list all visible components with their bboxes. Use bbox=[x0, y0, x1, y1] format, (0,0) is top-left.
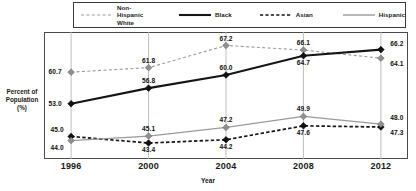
value-label-non-hispanic-white-2008: 66.1 bbox=[286, 39, 320, 46]
x-tick-2000: 2000 bbox=[119, 161, 179, 171]
value-label-non-hispanic-white-2004: 67.2 bbox=[209, 35, 243, 42]
value-label-asian-2000: 43.4 bbox=[132, 146, 166, 153]
data-point-hispanic-2000 bbox=[145, 133, 152, 140]
legend-item-hispanic: Hispanic bbox=[343, 3, 405, 27]
legend-item-non-hispanic-white: Non-Hispanic White bbox=[81, 3, 153, 27]
data-point-black-2012 bbox=[378, 46, 385, 53]
legend-label-non-hispanic-white: Non-Hispanic White bbox=[117, 4, 153, 26]
legend-label-hispanic: Hispanic bbox=[379, 11, 405, 18]
value-label-non-hispanic-white-1996: 60.7 bbox=[38, 68, 72, 75]
x-axis-title: Year bbox=[0, 177, 416, 184]
value-label-non-hispanic-white-2000: 61.8 bbox=[132, 57, 166, 64]
data-point-hispanic-2004 bbox=[223, 124, 230, 131]
data-point-black-2000 bbox=[145, 85, 152, 92]
chart-legend: Non-Hispanic White Black Asian bbox=[73, 2, 406, 28]
data-point-hispanic-2008 bbox=[300, 113, 307, 120]
value-label-hispanic-2012: 48.0 bbox=[380, 114, 414, 121]
x-tick-1996: 1996 bbox=[41, 161, 101, 171]
legend-item-black: Black bbox=[179, 3, 232, 27]
y-axis-title: Percent of Population (%) bbox=[1, 88, 43, 112]
x-tick-2012: 2012 bbox=[351, 161, 411, 171]
legend-item-asian: Asian bbox=[260, 3, 313, 27]
value-label-black-2004: 60.0 bbox=[209, 64, 243, 71]
chart-container: Non-Hispanic White Black Asian bbox=[0, 0, 416, 191]
value-label-asian-2008: 47.6 bbox=[286, 129, 320, 136]
legend-label-black: Black bbox=[215, 11, 232, 18]
x-tick-2008: 2008 bbox=[273, 161, 333, 171]
plot-series-layer bbox=[44, 32, 408, 159]
value-label-hispanic-2004: 47.2 bbox=[209, 116, 243, 123]
value-label-non-hispanic-white-2012: 64.1 bbox=[380, 60, 414, 67]
value-label-asian-2004: 44.2 bbox=[209, 143, 243, 150]
value-label-black-1996: 53.0 bbox=[38, 100, 72, 107]
dashed-gray-line-icon bbox=[81, 10, 113, 20]
value-label-asian-1996: 45.0 bbox=[40, 126, 74, 133]
value-label-hispanic-1996: 44.0 bbox=[40, 144, 74, 151]
value-label-asian-2012: 47.3 bbox=[380, 129, 414, 136]
data-point-black-2004 bbox=[223, 72, 230, 79]
value-label-black-2012: 66.2 bbox=[380, 40, 414, 47]
solid-black-line-icon bbox=[179, 10, 211, 20]
solid-gray-line-icon bbox=[343, 10, 375, 20]
data-point-non-hispanic-white-2004 bbox=[223, 42, 230, 49]
dashed-black-line-icon bbox=[260, 10, 292, 20]
x-tick-2004: 2004 bbox=[196, 161, 256, 171]
value-label-hispanic-2008: 49.9 bbox=[286, 105, 320, 112]
value-label-black-2008: 64.7 bbox=[286, 59, 320, 66]
legend-label-asian: Asian bbox=[296, 11, 313, 18]
value-label-black-2000: 56.8 bbox=[132, 77, 166, 84]
value-label-hispanic-2000: 45.1 bbox=[132, 125, 166, 132]
data-point-non-hispanic-white-2000 bbox=[145, 64, 152, 71]
